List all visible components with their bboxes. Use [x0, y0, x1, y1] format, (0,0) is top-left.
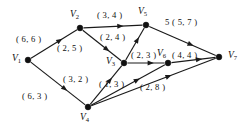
node-label-v7: V7 — [228, 51, 237, 61]
edge-label-v1-v4: ( 6, 3 ) — [22, 92, 47, 101]
node-v6[interactable] — [165, 60, 171, 66]
node-label-v4: V4 — [80, 113, 89, 123]
node-label-v5: V5 — [138, 7, 147, 17]
node-v1[interactable] — [25, 57, 31, 63]
figure-canvas: V1V2V3V4V5V6V7( 6, 6 )( 6, 3 )( 3, 4 )( … — [0, 0, 243, 130]
node-v5[interactable] — [143, 22, 149, 28]
edge-label-v4-v6: ( 1, 3 ) — [99, 80, 124, 89]
edge-label-v6-v7: ( 4, 4 ) — [172, 51, 197, 60]
node-v2[interactable] — [77, 25, 83, 31]
edge-v3-to-v6 — [128, 61, 165, 66]
node-label-v1: V1 — [12, 54, 21, 64]
edge-label-v2-v3: ( 2, 5 ) — [57, 44, 82, 53]
node-label-v3: V3 — [106, 57, 115, 67]
node-v3[interactable] — [121, 60, 127, 66]
node-v4[interactable] — [85, 104, 91, 110]
node-label-v6: V6 — [157, 49, 166, 59]
node-label-v2: V2 — [70, 10, 79, 20]
edge-label-v2-v5: ( 3, 4 ) — [97, 11, 122, 20]
edge-label-v4-v7: ( 2, 8 ) — [140, 83, 165, 92]
edge-v2-to-v5 — [83, 24, 142, 29]
edge-label-v3-v6: ( 2, 3 ) — [131, 51, 156, 60]
edge-label-v1-v2: ( 6, 6 ) — [16, 35, 41, 44]
edge-label-v4-v3: ( 3, 2 ) — [63, 75, 88, 84]
edge-label-v5-v7: 5 ( 5, 7 ) — [165, 18, 197, 27]
edge-label-v3-v5: ( 2, 4 ) — [100, 33, 125, 42]
node-v7[interactable] — [216, 54, 222, 60]
